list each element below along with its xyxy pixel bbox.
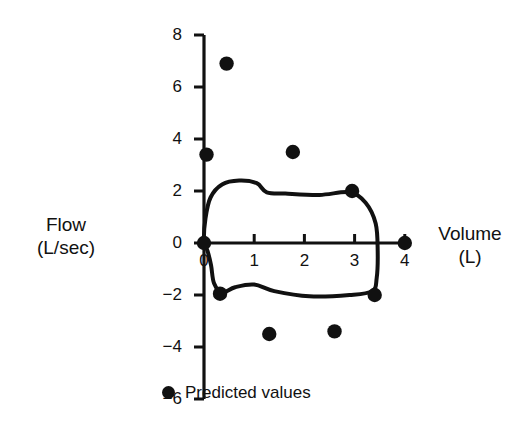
x-axis-tick-label: 2 — [292, 251, 316, 270]
x-axis-label-line1: Volume — [421, 222, 519, 245]
x-axis-label: Volume (L) — [421, 222, 519, 268]
y-axis-tick-label: 6 — [152, 77, 182, 96]
x-axis-label-line2: (L) — [421, 245, 519, 268]
data-point — [398, 236, 412, 250]
x-axis-tick-label: 0 — [192, 251, 216, 270]
flow-volume-loop-chart: Flow (L/sec) Volume (L) 86420−2−4−601234… — [0, 0, 521, 436]
data-point — [199, 147, 213, 161]
y-axis-tick-label: 4 — [152, 129, 182, 148]
data-point — [262, 327, 276, 341]
y-axis-label-line2: (L/sec) — [10, 236, 122, 259]
y-axis-tick-label: −4 — [152, 337, 182, 356]
legend-marker-icon — [162, 386, 175, 399]
legend: Predicted values — [162, 383, 311, 402]
x-axis-tick-label: 1 — [242, 251, 266, 270]
y-axis-label-line1: Flow — [10, 213, 122, 236]
data-point — [213, 287, 227, 301]
data-point — [327, 324, 341, 338]
y-axis-tick-label: 2 — [152, 181, 182, 200]
data-point — [345, 184, 359, 198]
data-point — [219, 56, 233, 70]
y-axis-tick-label: 8 — [152, 25, 182, 44]
y-axis-tick-label: −2 — [152, 285, 182, 304]
data-point — [286, 145, 300, 159]
legend-label: Predicted values — [185, 383, 311, 402]
data-point — [197, 236, 211, 250]
data-point — [367, 288, 381, 302]
x-axis-tick-label: 4 — [393, 251, 417, 270]
x-axis-tick-label: 3 — [343, 251, 367, 270]
y-axis-tick-label: 0 — [152, 233, 182, 252]
y-axis-label: Flow (L/sec) — [10, 213, 122, 259]
